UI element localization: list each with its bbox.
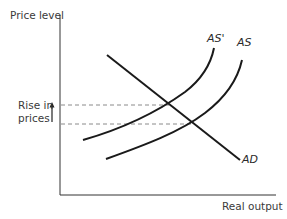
- x-axis-label: Real output: [222, 200, 283, 212]
- as-curve-label: AS: [237, 37, 252, 49]
- as-prime-curve-label: AS': [207, 33, 225, 45]
- ad-curve: [107, 55, 240, 160]
- ad-curve-label: AD: [242, 154, 258, 166]
- rise-in-prices-label-line1: Rise in: [18, 99, 53, 111]
- y-axis-label: Price level: [10, 9, 64, 21]
- as-prime-curve: [83, 48, 214, 140]
- as-curve: [106, 60, 242, 159]
- rise-in-prices-label-line2: prices: [18, 112, 50, 124]
